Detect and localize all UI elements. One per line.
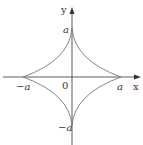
origin-label: 0 <box>62 80 68 91</box>
astroid-diagram: y x 0 a −a −a a <box>0 0 143 145</box>
neg-y-tick-label: −a <box>58 122 72 133</box>
neg-x-tick-label: −a <box>16 81 30 92</box>
pos-y-tick-label: a <box>63 24 69 35</box>
y-axis-arrow-icon <box>70 7 75 14</box>
x-axis-arrow-icon <box>134 75 141 80</box>
x-axis-label: x <box>133 81 139 92</box>
pos-x-tick-label: a <box>117 81 123 92</box>
y-axis-label: y <box>60 4 67 15</box>
